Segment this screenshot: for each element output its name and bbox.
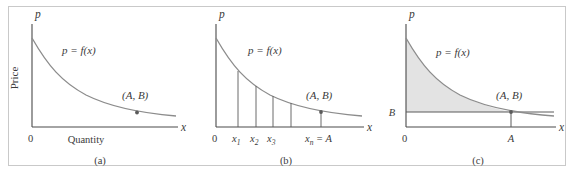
panel-b-x-axis-label: x xyxy=(366,121,373,133)
panel-c-point-label: (A, B) xyxy=(496,89,523,102)
panel-a-y-axis-label: p xyxy=(34,8,41,21)
panel-c-x-axis-label: x xyxy=(558,121,565,133)
panel-b-tick-label-n: xn = A xyxy=(304,133,333,147)
panel-a-origin-label: 0 xyxy=(28,133,33,144)
panel-b-point-label: (A, B) xyxy=(306,89,333,102)
panel-b: p x 0 x1 x2 x3 xn = A p = f(x) (A, B) (b… xyxy=(186,0,378,178)
demand-curve-figure: p x 0 Quantity Price p = f(x) (A, B) (a) xyxy=(0,0,576,178)
panel-c: p x 0 B A p = f(x) (A, B) (c) xyxy=(378,0,570,178)
panel-c-price-level-label: B xyxy=(389,107,396,118)
panel-a: p x 0 Quantity Price p = f(x) (A, B) (a) xyxy=(0,0,192,178)
panel-c-point-marker xyxy=(509,110,513,114)
panel-a-x-axis-name: Quantity xyxy=(68,134,105,145)
panel-c-origin-label: 0 xyxy=(402,133,407,144)
panel-a-point-label: (A, B) xyxy=(122,89,149,102)
panel-b-point-marker xyxy=(319,110,323,114)
panel-b-tick-label-1: x1 xyxy=(231,133,240,147)
panel-a-demand-curve xyxy=(32,38,176,116)
panel-b-origin-label: 0 xyxy=(212,133,217,144)
panel-a-y-axis-name: Price xyxy=(8,67,20,90)
panel-b-tick-label-2: x2 xyxy=(249,133,259,147)
panel-b-y-axis-label: p xyxy=(218,8,225,21)
panel-a-point-marker xyxy=(135,111,139,115)
panel-b-caption: (b) xyxy=(280,155,293,167)
panel-a-caption: (a) xyxy=(94,155,106,167)
panel-c-curve-label: p = f(x) xyxy=(435,46,470,59)
panel-c-quantity-level-label: A xyxy=(507,133,515,144)
panel-a-curve-label: p = f(x) xyxy=(61,44,96,57)
panel-b-curve-label: p = f(x) xyxy=(247,44,282,57)
panel-c-y-axis-label: p xyxy=(408,8,415,21)
panel-c-caption: (c) xyxy=(472,155,484,167)
panel-b-tick-label-3: x3 xyxy=(266,133,276,147)
